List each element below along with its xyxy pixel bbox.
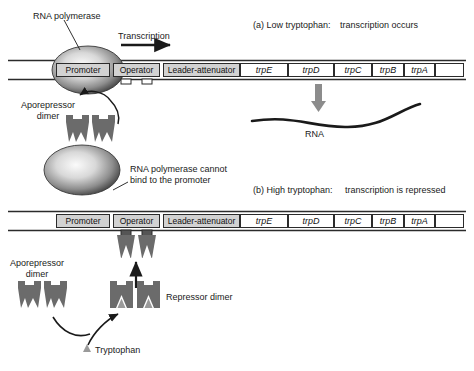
panel-a-condition: (a) Low tryptophan: <box>253 20 331 31</box>
cannot-bind-leader-line <box>113 182 128 190</box>
panel-b-outcome: transcription is repressed <box>345 185 446 196</box>
rna-transcript-strand <box>252 104 420 127</box>
aporepressor-dimer-label-bottom: Aporepressor dimer <box>6 258 68 279</box>
aporepressor-dimer-label-top: Aporepressor dimer <box>17 100 79 121</box>
gene-segment-promoter: Promoter <box>56 214 110 228</box>
rna-label: RNA <box>305 129 324 140</box>
repressor-dimer-bound <box>117 235 156 258</box>
gene-segment-operator: Operator <box>113 63 160 77</box>
gene-segment-trpD: trpD <box>288 214 334 228</box>
polymerase-leader-line <box>64 20 80 50</box>
gene-segment-leader-attenuator: Leader-attenuator <box>163 63 240 77</box>
tryptophan-legend-triangle <box>83 344 91 352</box>
cannot-bind-label: RNA polymerase cannot bind to the promot… <box>130 164 227 185</box>
tryptophan-join-curve <box>88 314 118 345</box>
gene-segment-trpE: trpE <box>240 63 288 77</box>
repressor-dimer-label: Repressor dimer <box>166 292 233 303</box>
gene-segment-leader-attenuator: Leader-attenuator <box>163 214 240 228</box>
gene-segment-trpC: trpC <box>334 214 372 228</box>
gene-segment-operator: Operator <box>113 214 160 228</box>
gene-segment-trpB: trpB <box>372 63 404 77</box>
aporepressor-to-repressor-curve <box>53 317 90 336</box>
gene-segment-trpA: trpA <box>404 63 435 77</box>
aporepressor-dimer-bottom <box>18 281 67 308</box>
transcription-down-arrow <box>311 84 326 112</box>
gene-segment-trpE: trpE <box>240 214 288 228</box>
tryptophan-label: Tryptophan <box>95 345 140 356</box>
gene-segment-promoter: Promoter <box>56 63 110 77</box>
gene-segment-trpA: trpA <box>404 214 435 228</box>
diagram-canvas: (a) Low tryptophan: transcription occurs… <box>0 0 474 371</box>
gene-segment-trpD: trpD <box>288 63 334 77</box>
panel-b-condition: (b) High tryptophan: <box>253 185 333 196</box>
gene-segment-downstream <box>435 63 464 77</box>
rna-polymerase-label: RNA polymerase <box>33 11 101 22</box>
gene-segment-trpC: trpC <box>334 63 372 77</box>
gene-segment-trpB: trpB <box>372 214 404 228</box>
panel-a-outcome: transcription occurs <box>340 20 418 31</box>
rna-polymerase-ellipse-free <box>44 145 120 195</box>
gene-segment-downstream <box>435 214 464 228</box>
transcription-label: Transcription <box>118 31 170 42</box>
